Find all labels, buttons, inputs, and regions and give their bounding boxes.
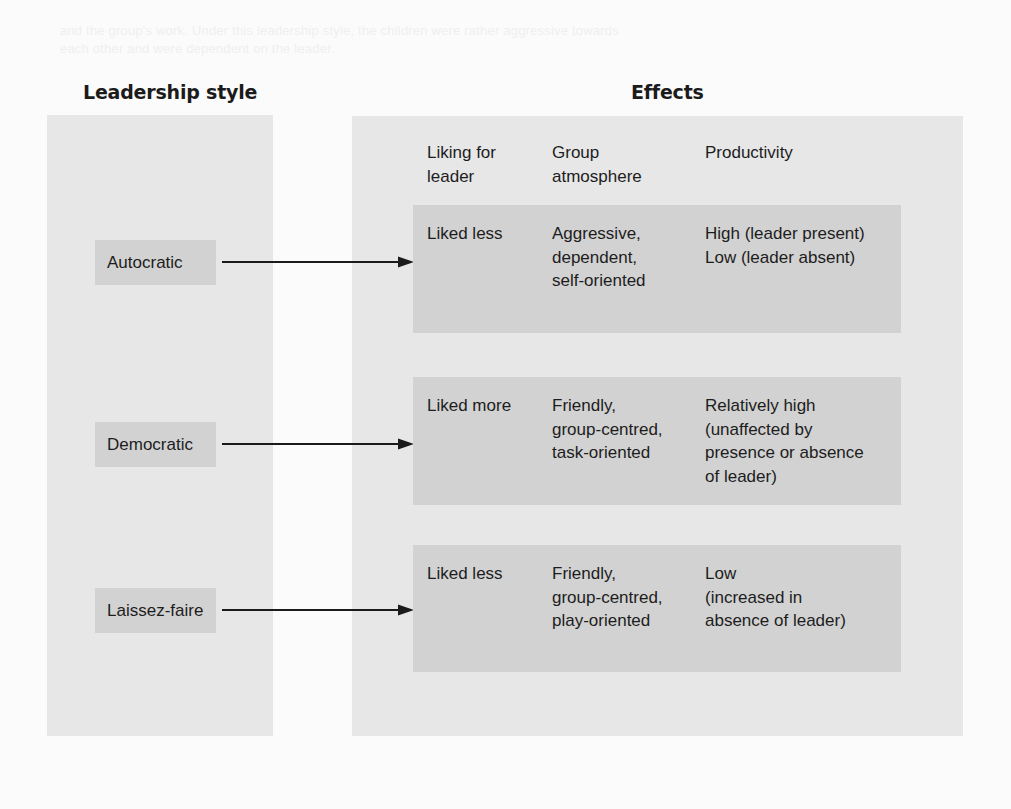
leadership-style-heading: Leadership style (83, 81, 257, 103)
cell-liking-for-leader: Liked less (427, 562, 551, 586)
effects-column-header-row: Liking for leader Group atmosphere Produ… (413, 141, 901, 197)
cell-group-atmosphere: Friendly, group-centred, play-oriented (552, 562, 704, 633)
cell-group-atmosphere: Friendly, group-centred, task-oriented (552, 394, 704, 465)
page-bleed-through-text-line-1: and the group's work. Under this leaders… (60, 22, 960, 39)
leadership-style-box-laissez-faire: Laissez-faire (95, 588, 216, 633)
arrow-autocratic-to-effects (222, 255, 414, 269)
leadership-style-box-autocratic: Autocratic (95, 240, 216, 285)
column-header-liking-for-leader: Liking for leader (427, 141, 551, 188)
cell-group-atmosphere: Aggressive, dependent, self-oriented (552, 222, 704, 293)
leadership-style-label: Democratic (107, 435, 193, 455)
effects-row-laissez-faire: Liked less Friendly, group-centred, play… (413, 545, 901, 672)
effects-heading: Effects (631, 81, 704, 103)
column-header-productivity: Productivity (705, 141, 901, 165)
leadership-style-effects-diagram: and the group's work. Under this leaders… (0, 0, 1011, 809)
arrow-laissez-faire-to-effects (222, 603, 414, 617)
cell-liking-for-leader: Liked more (427, 394, 551, 418)
leadership-style-label: Laissez-faire (107, 601, 203, 621)
leadership-style-label: Autocratic (107, 253, 183, 273)
effects-row-democratic: Liked more Friendly, group-centred, task… (413, 377, 901, 505)
cell-productivity: Low (increased in absence of leader) (705, 562, 901, 633)
effects-row-autocratic: Liked less Aggressive, dependent, self-o… (413, 205, 901, 333)
page-bleed-through-text-line-2: each other and were dependent on the lea… (60, 40, 960, 57)
leadership-style-box-democratic: Democratic (95, 422, 216, 467)
cell-productivity: High (leader present) Low (leader absent… (705, 222, 901, 269)
column-header-group-atmosphere: Group atmosphere (552, 141, 704, 188)
cell-productivity: Relatively high (unaffected by presence … (705, 394, 901, 488)
cell-liking-for-leader: Liked less (427, 222, 551, 246)
arrow-democratic-to-effects (222, 437, 414, 451)
